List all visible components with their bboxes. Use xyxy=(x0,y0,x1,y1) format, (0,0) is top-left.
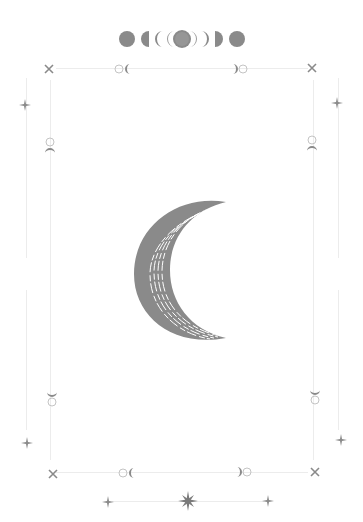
frame-line-left-lower xyxy=(26,290,27,430)
moon-pair-vertical-icon xyxy=(309,386,321,406)
half-moon-icon xyxy=(215,31,223,47)
crescent-icon xyxy=(155,31,163,47)
moon-pair-vertical-icon xyxy=(306,135,318,155)
frame-line-right-lower xyxy=(338,290,339,430)
crescent-moon-icon xyxy=(128,198,234,344)
x-star-icon xyxy=(310,467,320,477)
four-point-star-icon xyxy=(262,495,274,507)
x-star-icon xyxy=(307,63,317,73)
moon-pair-icon xyxy=(118,467,138,479)
moon-pair-vertical-icon xyxy=(46,388,58,408)
crescent-icon xyxy=(201,31,209,47)
moon-pair-icon xyxy=(229,63,249,75)
four-point-star-icon xyxy=(335,434,347,446)
four-point-star-icon xyxy=(331,97,343,109)
x-star-icon xyxy=(48,469,58,479)
moon-pair-icon xyxy=(114,63,134,75)
new-moon-icon xyxy=(229,31,245,47)
four-point-star-icon xyxy=(102,496,114,508)
frame-line-bottom xyxy=(56,472,308,473)
moon-phases-row xyxy=(118,28,246,50)
moon-pair-icon xyxy=(233,466,253,478)
eight-point-star-icon xyxy=(178,491,198,511)
four-point-star-icon xyxy=(21,437,33,449)
x-star-icon xyxy=(44,64,54,74)
four-point-star-icon xyxy=(19,99,31,111)
half-moon-icon xyxy=(141,31,149,47)
moon-pair-vertical-icon xyxy=(44,137,56,157)
new-moon-icon xyxy=(119,31,135,47)
frame-line-top xyxy=(56,68,308,69)
